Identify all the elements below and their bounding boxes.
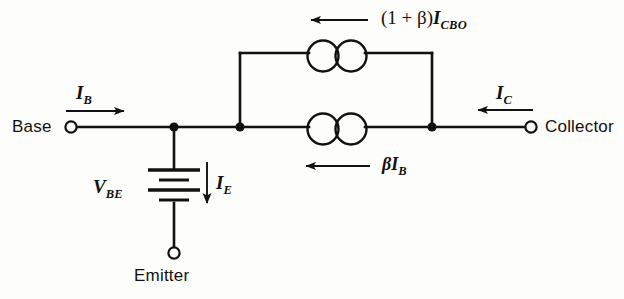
current-source-top-icon (308, 41, 367, 72)
label-base-current: IB (76, 83, 92, 106)
terminal-base-node[interactable] (65, 121, 76, 132)
label-top-source-current: (1 + β)ICBO (381, 8, 467, 31)
emitter-current-subscript: E (223, 183, 232, 197)
terminal-collector-node[interactable] (525, 121, 536, 132)
top-source-subscript: CBO (440, 18, 467, 32)
collector-current-subscript: C (503, 93, 512, 107)
label-base-terminal: Base (12, 118, 52, 135)
junction-node-loop-right (427, 122, 436, 131)
junction-node-base (169, 122, 178, 131)
label-bottom-source-current: βIB (382, 155, 407, 177)
label-collector-terminal: Collector (545, 118, 614, 135)
base-current-subscript: B (83, 93, 92, 107)
top-source-prefix: (1 + β) (381, 7, 433, 28)
junction-node-loop-left (235, 122, 244, 131)
circuit-schematic-canvas (0, 0, 624, 299)
current-source-bottom-icon (308, 114, 367, 145)
terminal-emitter-node[interactable] (168, 247, 179, 258)
label-emitter-terminal: Emitter (134, 267, 189, 284)
battery-symbol (148, 170, 200, 200)
label-base-emitter-voltage: VBE (93, 177, 123, 200)
battery-subscript: BE (106, 187, 123, 201)
label-emitter-current: IE (216, 173, 232, 196)
circuit-diagram: Base Collector Emitter IB IC IE VBE (1 +… (0, 0, 624, 299)
bottom-source-subscript: B (398, 164, 407, 178)
bottom-source-prefix: β (382, 154, 391, 174)
label-collector-current: IC (496, 83, 512, 106)
battery-symbol-text: V (93, 176, 106, 197)
